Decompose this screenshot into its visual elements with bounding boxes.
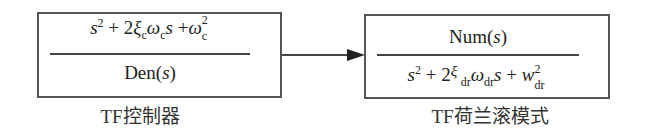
- dutch-roll-denominator: s2 + 2ξdrωdrs + w2dr: [378, 64, 578, 86]
- dutch-roll-numerator: Num(s): [378, 26, 578, 48]
- controller-numerator: s2 + 2ξcωcs +ω2c: [50, 17, 250, 39]
- dutch-roll-fraction-bar: [377, 54, 579, 56]
- arrow-head-icon: [347, 49, 365, 61]
- connection-arrow-line: [282, 54, 352, 56]
- dutch-roll-caption: TF荷兰滚模式: [400, 101, 580, 128]
- controller-fraction-bar: [50, 53, 250, 55]
- controller-caption: TF控制器: [60, 101, 220, 128]
- controller-denominator: Den(s): [50, 62, 250, 84]
